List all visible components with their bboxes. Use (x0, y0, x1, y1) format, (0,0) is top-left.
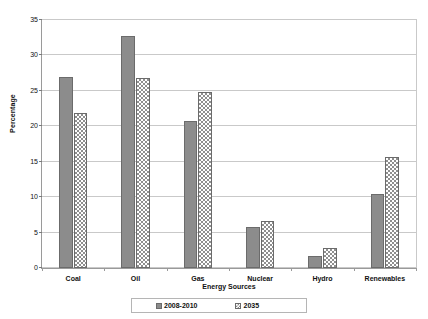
y-axis-tick-mark (39, 232, 42, 233)
x-axis-tick-mark (42, 268, 43, 271)
x-axis-tick-mark (229, 268, 230, 271)
y-axis-tick-label: 0 (34, 264, 38, 271)
gridline: 35 (42, 19, 416, 20)
y-axis-tick-label: 30 (30, 51, 38, 58)
y-axis-title: Percentage (9, 74, 16, 154)
y-axis-tick-label: 25 (30, 86, 38, 93)
y-axis-tick-label: 35 (30, 16, 38, 23)
y-axis-tick-mark (39, 161, 42, 162)
x-axis-category-label: Nuclear (247, 275, 273, 282)
x-axis-category-label: Gas (191, 275, 204, 282)
x-axis-tick-mark (291, 268, 292, 271)
legend-swatch-icon (156, 303, 162, 309)
x-axis-tick-mark (104, 268, 105, 271)
bar-hydro-2008-2010 (308, 256, 321, 268)
bar-renewables-2008-2010 (371, 194, 384, 268)
gridline: 25 (42, 90, 416, 91)
chart-legend: 2008-2010 2035 (131, 298, 307, 313)
bar-gas-2035 (198, 92, 211, 268)
legend-label: 2035 (243, 302, 259, 309)
y-axis-tick-mark (39, 125, 42, 126)
y-axis-tick-label: 10 (30, 193, 38, 200)
bar-hydro-2035 (323, 248, 336, 268)
bar-oil-2008-2010 (121, 36, 134, 268)
bar-oil-2035 (136, 78, 149, 268)
x-axis-tick-mark (167, 268, 168, 271)
gridline: 30 (42, 54, 416, 55)
y-axis-tick-mark (39, 19, 42, 20)
bar-coal-2035 (74, 113, 87, 268)
legend-swatch-icon (235, 303, 241, 309)
legend-item-series-2: 2035 (235, 302, 259, 309)
x-axis-title: Energy Sources (41, 283, 417, 290)
x-axis-tick-mark (354, 268, 355, 271)
legend-item-series-1: 2008-2010 (156, 302, 197, 309)
x-axis-category-label: Renewables (365, 275, 405, 282)
y-axis-tick-label: 5 (34, 228, 38, 235)
y-axis-tick-label: 15 (30, 157, 38, 164)
bar-renewables-2035 (385, 157, 398, 268)
bar-gas-2008-2010 (184, 121, 197, 268)
gridline: 10 (42, 196, 416, 197)
y-axis-tick-mark (39, 54, 42, 55)
legend-label: 2008-2010 (164, 302, 197, 309)
y-axis-tick-mark (39, 90, 42, 91)
x-axis-category-label: Hydro (312, 275, 332, 282)
bar-nuclear-2035 (261, 221, 274, 268)
plot-area: 05101520253035 CoalOilGasNuclearHydroRen… (41, 19, 417, 269)
gridline: 5 (42, 232, 416, 233)
gridline: 20 (42, 125, 416, 126)
bar-chart: Percentage 05101520253035 CoalOilGasNucl… (0, 0, 428, 319)
y-axis-tick-mark (39, 196, 42, 197)
x-axis-category-label: Coal (66, 275, 81, 282)
y-axis-tick-label: 20 (30, 122, 38, 129)
bar-coal-2008-2010 (59, 77, 72, 268)
x-axis-tick-mark (416, 268, 417, 271)
x-axis-category-label: Oil (131, 275, 140, 282)
gridline: 15 (42, 161, 416, 162)
bar-nuclear-2008-2010 (246, 227, 259, 268)
